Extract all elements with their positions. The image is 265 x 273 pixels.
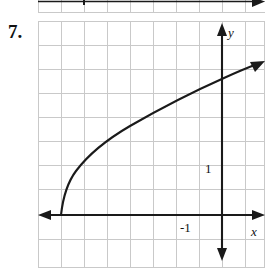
y-axis-tick-label-1: 1 — [205, 162, 212, 175]
previous-figure-fragment — [0, 0, 265, 16]
figure-container: 7. — [0, 0, 265, 273]
curve-arrowhead — [250, 61, 265, 72]
x-axis-tick-label-neg-1: -1 — [180, 221, 191, 234]
x-axis-label: x — [251, 225, 257, 238]
problem-number: 7. — [8, 22, 22, 41]
graph-panel — [38, 21, 265, 268]
curve-square-root — [61, 61, 265, 215]
y-axis-top-arrowhead — [217, 23, 227, 36]
y-axis-label: y — [228, 26, 234, 39]
coordinate-plane-svg — [38, 21, 265, 268]
grid-lines — [38, 21, 265, 268]
y-axis-bottom-arrowhead — [217, 248, 227, 261]
x-axis — [38, 210, 265, 220]
previous-figure-axis — [38, 0, 265, 7]
x-axis-left-arrowhead — [38, 210, 51, 220]
x-axis-right-arrowhead — [252, 210, 265, 220]
